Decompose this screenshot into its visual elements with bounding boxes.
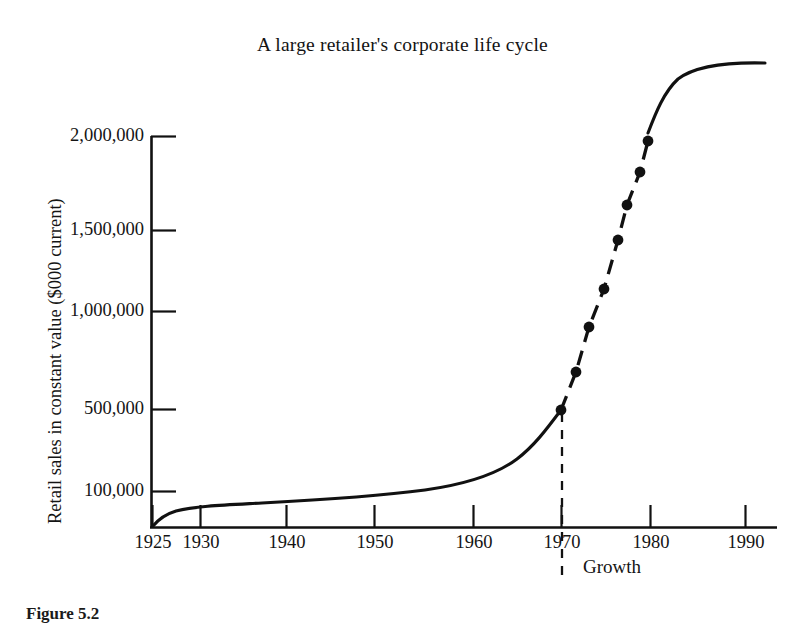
- series-maturity-curve: [648, 63, 765, 133]
- data-point: [613, 235, 624, 246]
- x-tick-label-1970: 1970: [521, 533, 603, 552]
- figure-root: A large retailer's corporate life cycle …: [0, 0, 805, 624]
- growth-annotation-label: Growth: [583, 556, 641, 578]
- x-tick-label-1960: 1960: [433, 533, 515, 552]
- y-tick-label-2000000: 2,000,000: [36, 126, 144, 145]
- series-historical-curve: [153, 410, 561, 526]
- y-tick-label-500000: 500,000: [36, 399, 144, 418]
- data-point: [635, 167, 646, 178]
- data-point: [643, 136, 654, 147]
- figure-caption: Figure 5.2: [26, 604, 99, 624]
- x-tick-label-1940: 1940: [246, 533, 328, 552]
- x-tick-label-1950: 1950: [334, 533, 416, 552]
- data-point: [571, 367, 582, 378]
- x-tick-label-1990: 1990: [705, 533, 787, 552]
- data-point: [599, 284, 610, 295]
- x-tick-label-1930: 1930: [160, 533, 242, 552]
- data-point: [622, 200, 633, 211]
- y-tick-label-100000: 100,000: [36, 481, 144, 500]
- data-point: [584, 322, 595, 333]
- y-tick-label-1500000: 1,500,000: [36, 220, 144, 239]
- x-axis-ticks: [153, 505, 746, 527]
- x-tick-label-1980: 1980: [610, 533, 692, 552]
- y-axis-ticks: [151, 137, 176, 492]
- y-tick-label-1000000: 1,000,000: [36, 301, 144, 320]
